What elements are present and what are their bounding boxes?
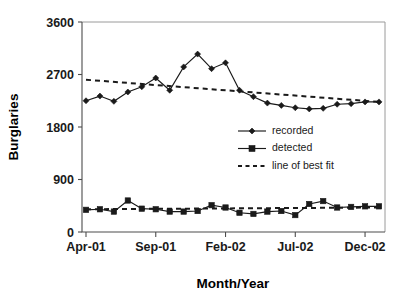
data-point-marker (195, 208, 200, 213)
y-tick-label: 1800 (46, 121, 74, 135)
data-point-marker (125, 198, 130, 203)
x-tick-label: Feb-02 (205, 240, 245, 254)
x-axis-title: Month/Year (197, 276, 271, 291)
burglaries-chart: 0900180027003600 Apr-01Sep-01Feb-02Jul-0… (0, 0, 410, 296)
y-axis-title: Burglaries (6, 94, 21, 161)
data-point-marker (181, 209, 186, 214)
data-point-marker (167, 209, 172, 214)
chart-canvas: 0900180027003600 Apr-01Sep-01Feb-02Jul-0… (0, 0, 410, 296)
data-point-marker (362, 204, 367, 209)
data-point-marker (237, 210, 242, 215)
legend-label: recorded (272, 124, 314, 136)
legend-label: detected (272, 141, 312, 153)
data-point-marker (97, 207, 102, 212)
data-point-marker (251, 211, 256, 216)
data-point-marker (111, 209, 116, 214)
data-point-marker (83, 207, 88, 212)
data-point-marker (209, 202, 214, 207)
data-point-marker (153, 207, 158, 212)
data-point-marker (334, 205, 339, 210)
y-tick-label: 900 (53, 173, 74, 187)
data-point-marker (307, 201, 312, 206)
data-point-marker (348, 204, 353, 209)
y-tick-label: 3600 (46, 16, 74, 30)
data-point-marker (293, 212, 298, 217)
y-tick-label: 2700 (46, 68, 74, 82)
data-point-marker (223, 205, 228, 210)
legend-label: line of best fit (272, 159, 334, 171)
x-tick-label: Jul-02 (277, 240, 313, 254)
data-point-marker (139, 206, 144, 211)
data-point-marker (265, 209, 270, 214)
data-point-marker (279, 208, 284, 213)
x-tick-label: Sep-01 (135, 240, 176, 254)
data-point-marker (320, 198, 325, 203)
data-point-marker (376, 204, 381, 209)
y-tick-label: 0 (67, 226, 74, 240)
x-tick-label: Apr-01 (66, 240, 106, 254)
x-tick-label: Dec-02 (345, 240, 386, 254)
legend-marker-square (249, 146, 255, 152)
